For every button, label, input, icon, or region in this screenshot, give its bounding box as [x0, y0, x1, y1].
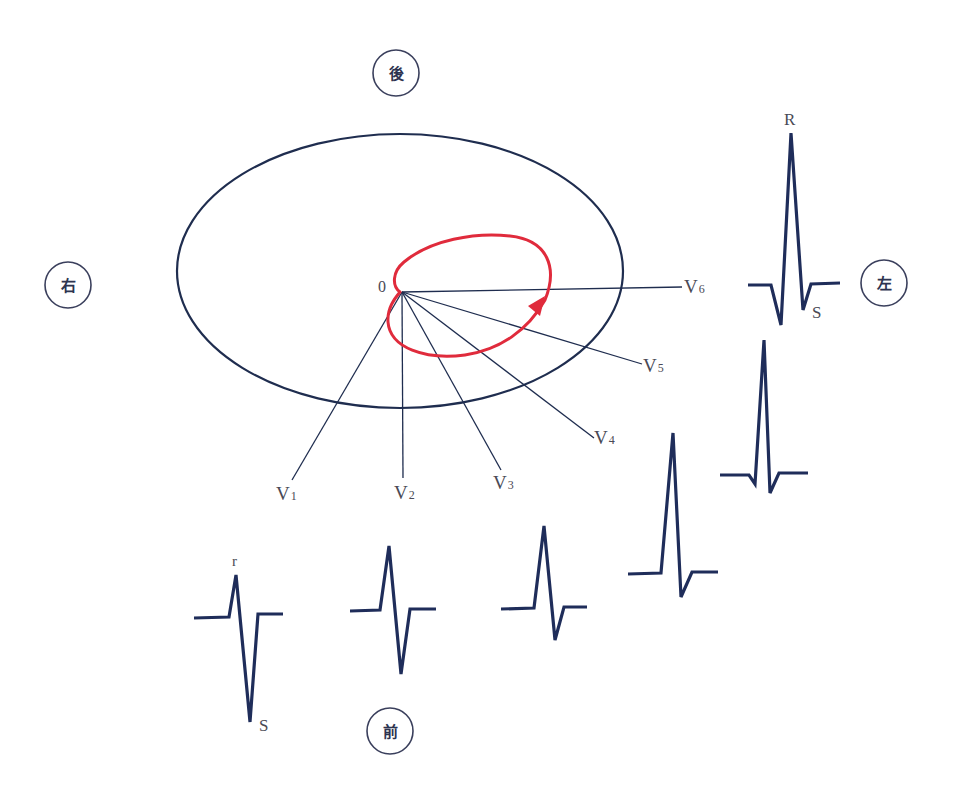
origin-label: 0	[378, 278, 386, 295]
svg-text:V3: V3	[493, 472, 514, 493]
qrs-complex-v1: r S	[194, 553, 283, 735]
lead-label-v5: V5	[643, 355, 664, 376]
direction-anterior: 前	[367, 708, 413, 754]
direction-right-label: 右	[61, 277, 76, 295]
direction-anterior-label: 前	[383, 723, 398, 741]
v6-s-label: S	[812, 303, 821, 322]
qrs-complex-v5	[720, 340, 808, 493]
qrs-complex-v3	[501, 526, 587, 640]
direction-posterior: 後	[373, 50, 419, 96]
v6-r-label: R	[784, 110, 796, 129]
qrs-complex-v6: R S	[748, 110, 840, 325]
lead-label-v3: V3	[493, 472, 514, 493]
svg-text:V2: V2	[394, 482, 415, 503]
lead-axis-v1	[292, 292, 402, 480]
qrs-complex-v4	[628, 433, 718, 597]
lead-label-v2: V2	[394, 482, 415, 503]
v1-r-label: r	[232, 553, 237, 569]
lead-axis-v4	[402, 292, 594, 438]
lead-label-v4: V4	[594, 427, 615, 448]
vectorcardiogram-diagram: 後 右 左 前 0 V1 V2 V3 V4 V5 V6	[0, 0, 957, 806]
svg-text:V1: V1	[276, 483, 297, 504]
loop-direction-arrow-icon	[528, 296, 545, 316]
direction-right: 右	[45, 262, 91, 308]
direction-left-label: 左	[876, 275, 892, 293]
v1-s-label: S	[259, 716, 268, 735]
svg-text:V4: V4	[594, 427, 615, 448]
direction-left: 左	[861, 260, 907, 306]
lead-label-v1: V1	[276, 483, 297, 504]
lead-axes	[292, 287, 682, 480]
lead-label-v6: V6	[684, 276, 705, 297]
lead-axis-v3	[402, 292, 501, 470]
chest-cross-section-ellipse	[177, 134, 623, 408]
svg-text:V6: V6	[684, 276, 705, 297]
lead-axis-v6	[402, 287, 682, 292]
svg-text:V5: V5	[643, 355, 664, 376]
lead-axis-v2	[402, 292, 403, 478]
direction-posterior-label: 後	[388, 65, 405, 83]
qrs-complex-v2	[350, 546, 436, 674]
